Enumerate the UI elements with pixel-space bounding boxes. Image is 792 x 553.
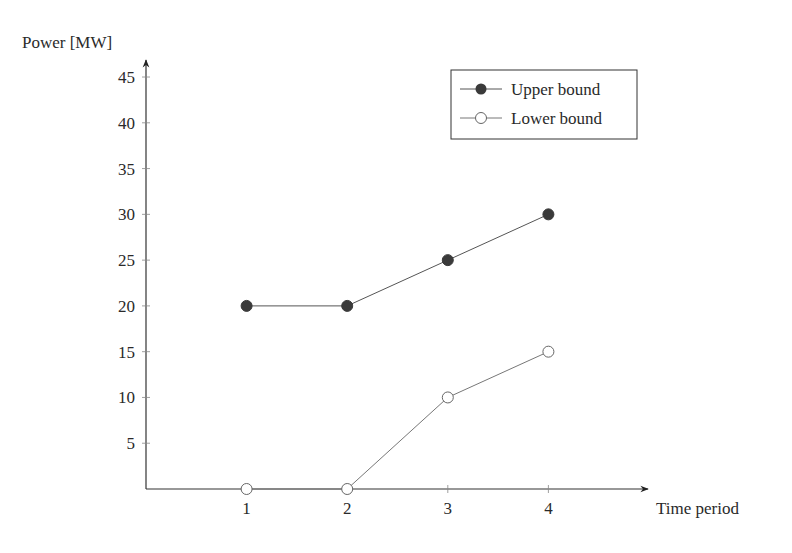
open-circle-marker-icon (543, 346, 554, 357)
filled-circle-marker-icon (442, 255, 453, 266)
filled-circle-marker-icon (241, 300, 252, 311)
series-line (247, 214, 549, 306)
filled-circle-marker-icon (543, 209, 554, 220)
x-tick-label: 3 (444, 499, 453, 518)
legend-label-lower-bound: Lower bound (511, 109, 603, 128)
filled-circle-marker-icon (342, 300, 353, 311)
x-tick-label: 1 (242, 499, 251, 518)
y-tick-label: 45 (118, 68, 135, 87)
y-tick-label: 15 (118, 343, 135, 362)
x-axis-ticks: 1234 (242, 485, 553, 518)
filled-circle-marker-icon (476, 84, 487, 95)
y-tick-label: 30 (118, 205, 135, 224)
y-tick-label: 25 (118, 251, 135, 270)
x-tick-label: 2 (343, 499, 352, 518)
open-circle-marker-icon (476, 113, 487, 124)
y-axis-ticks: 51015202530354045 (118, 68, 150, 453)
y-tick-label: 35 (118, 160, 135, 179)
legend: Upper bound Lower bound (451, 70, 637, 139)
x-axis-label: Time period (656, 499, 739, 518)
open-circle-marker-icon (342, 484, 353, 495)
y-tick-label: 10 (118, 388, 135, 407)
x-tick-label: 4 (544, 499, 553, 518)
legend-label-upper-bound: Upper bound (511, 80, 601, 99)
y-tick-label: 20 (118, 297, 135, 316)
series-layer (241, 209, 554, 495)
series-line (247, 352, 549, 489)
open-circle-marker-icon (442, 392, 453, 403)
series-upper-bound (241, 209, 554, 312)
series-lower-bound (241, 346, 554, 494)
y-axis-label: Power [MW] (22, 33, 112, 52)
y-tick-label: 40 (118, 114, 135, 133)
line-chart: Power [MW] Time period 51015202530354045… (0, 0, 792, 553)
open-circle-marker-icon (241, 484, 252, 495)
y-tick-label: 5 (127, 434, 136, 453)
